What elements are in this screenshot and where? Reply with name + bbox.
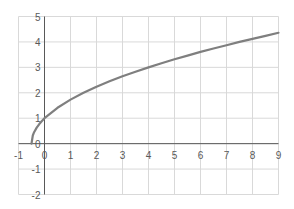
line-chart: -10123456789 -2-1012345 — [0, 0, 294, 209]
x-tick-label: 5 — [172, 150, 178, 161]
x-tick-label: 8 — [250, 150, 256, 161]
x-tick-label: 7 — [224, 150, 230, 161]
x-tick-label: 0 — [42, 150, 48, 161]
x-tick-label: 9 — [276, 150, 282, 161]
x-axis-tick-labels: -10123456789 — [14, 150, 282, 161]
x-tick-label: 3 — [120, 150, 126, 161]
y-tick-label: 5 — [35, 12, 41, 23]
gridlines — [19, 17, 279, 195]
x-tick-label: 2 — [94, 150, 100, 161]
y-tick-label: 3 — [35, 62, 41, 73]
x-tick-label: 4 — [146, 150, 152, 161]
y-axis-tick-labels: -2-1012345 — [32, 12, 41, 201]
y-tick-label: 4 — [35, 37, 41, 48]
x-tick-label: 6 — [198, 150, 204, 161]
y-tick-label: -1 — [32, 164, 41, 175]
y-tick-label: -2 — [32, 190, 41, 201]
data-series-line — [32, 33, 279, 144]
y-tick-label: 2 — [35, 88, 41, 99]
y-tick-label: 0 — [35, 139, 41, 150]
x-tick-label: -1 — [14, 150, 23, 161]
x-tick-label: 1 — [68, 150, 74, 161]
